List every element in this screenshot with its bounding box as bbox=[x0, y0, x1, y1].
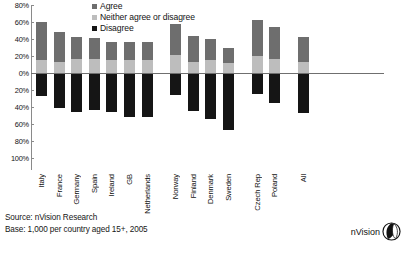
bar-column[interactable] bbox=[298, 5, 309, 170]
bar-column[interactable] bbox=[188, 5, 199, 170]
bar-column[interactable] bbox=[89, 5, 100, 170]
bar-segment-neither bbox=[252, 56, 263, 73]
bar-segment-neither bbox=[106, 60, 117, 73]
bar-segment-disagree bbox=[124, 73, 135, 117]
bar-segment-agree bbox=[89, 38, 100, 59]
x-axis-category-label: Poland bbox=[270, 174, 279, 197]
bar-segment-disagree bbox=[170, 73, 181, 95]
bar-column[interactable] bbox=[223, 5, 234, 170]
y-axis-tick-label: 40% bbox=[15, 35, 29, 44]
x-axis-category-label: Sweden bbox=[224, 174, 233, 201]
bar-column[interactable] bbox=[269, 5, 280, 170]
chart-footer: Source: nVision Research Base: 1,000 per… bbox=[5, 213, 148, 237]
chart-container: Agree Neither agree or disagree Disagree… bbox=[0, 0, 407, 255]
x-axis-category-label: All bbox=[299, 174, 308, 182]
bar-segment-disagree bbox=[36, 73, 47, 96]
x-axis-category-label: Italy bbox=[37, 174, 46, 187]
x-axis-category-label: Ireland bbox=[107, 174, 116, 197]
bar-segment-disagree bbox=[269, 73, 280, 103]
bar-segment-neither bbox=[269, 59, 280, 73]
bar-segment-agree bbox=[106, 42, 117, 61]
bar-segment-agree bbox=[298, 37, 309, 62]
nvision-logo-icon bbox=[382, 222, 401, 241]
bar-segment-agree bbox=[142, 42, 153, 60]
bar-column[interactable] bbox=[106, 5, 117, 170]
bar-segment-agree bbox=[124, 42, 135, 60]
y-axis-tick-label: 20% bbox=[15, 52, 29, 61]
bar-segment-disagree bbox=[252, 73, 263, 94]
x-axis-category-label: Czech Rep bbox=[253, 174, 262, 211]
bar-segment-agree bbox=[188, 36, 199, 62]
bar-segment-neither bbox=[124, 60, 135, 73]
bar-segment-neither bbox=[170, 55, 181, 73]
x-axis-category-label: Finland bbox=[189, 174, 198, 198]
bar-segment-agree bbox=[71, 37, 82, 59]
bar-segment-disagree bbox=[54, 73, 65, 108]
zero-baseline bbox=[31, 73, 384, 74]
bar-column[interactable] bbox=[54, 5, 65, 170]
x-axis-category-label: Germany bbox=[72, 174, 81, 205]
x-axis-category-label: Norway bbox=[171, 174, 180, 199]
brand-name: nVision bbox=[351, 227, 380, 237]
bar-column[interactable] bbox=[124, 5, 135, 170]
bar-column[interactable] bbox=[142, 5, 153, 170]
brand-logo: nVision bbox=[351, 222, 401, 241]
bar-column[interactable] bbox=[205, 5, 216, 170]
y-axis-tick-label: 20% bbox=[15, 86, 29, 95]
bar-segment-neither bbox=[89, 59, 100, 73]
x-axis-category-label: France bbox=[55, 174, 64, 197]
bar-segment-neither bbox=[223, 63, 234, 73]
source-note: Source: nVision Research bbox=[5, 213, 148, 222]
y-axis-tick-label: 60% bbox=[15, 120, 29, 129]
bar-column[interactable] bbox=[71, 5, 82, 170]
bar-segment-agree bbox=[269, 27, 280, 59]
bar-segment-disagree bbox=[223, 73, 234, 130]
bar-segment-disagree bbox=[188, 73, 199, 111]
bar-segment-neither bbox=[298, 62, 309, 73]
bar-segment-neither bbox=[205, 60, 216, 73]
x-axis-category-label: Netherlands bbox=[143, 174, 152, 214]
y-axis-tick-label: 40% bbox=[15, 103, 29, 112]
bar-segment-agree bbox=[170, 24, 181, 55]
y-axis-tick-label: 60% bbox=[15, 18, 29, 27]
bar-segment-disagree bbox=[71, 73, 82, 112]
bar-segment-agree bbox=[223, 48, 234, 62]
bar-segment-neither bbox=[188, 62, 199, 73]
x-axis-category-label: Spain bbox=[90, 174, 99, 193]
y-axis-tick-label: 80% bbox=[15, 137, 29, 146]
bar-segment-disagree bbox=[89, 73, 100, 110]
bar-segment-neither bbox=[36, 60, 47, 73]
bar-segment-disagree bbox=[142, 73, 153, 117]
bar-segment-disagree bbox=[205, 73, 216, 119]
y-axis-tick-label: 80% bbox=[15, 1, 29, 10]
bar-column[interactable] bbox=[170, 5, 181, 170]
bar-segment-agree bbox=[54, 32, 65, 62]
bar-segment-agree bbox=[205, 39, 216, 60]
base-note: Base: 1,000 per country aged 15+, 2005 bbox=[5, 225, 148, 234]
bar-segment-agree bbox=[36, 22, 47, 60]
bar-column[interactable] bbox=[36, 5, 47, 170]
x-axis-category-label: GB bbox=[125, 174, 134, 185]
bar-segment-agree bbox=[252, 20, 263, 56]
bar-segment-disagree bbox=[106, 73, 117, 112]
bar-segment-neither bbox=[71, 59, 82, 73]
y-axis-tick-label: 100% bbox=[11, 154, 29, 163]
plot-area bbox=[31, 5, 371, 170]
bar-segment-neither bbox=[142, 60, 153, 73]
x-axis-category-label: Denmark bbox=[206, 174, 215, 204]
y-axis-tick-label: 0% bbox=[19, 69, 29, 78]
bar-segment-disagree bbox=[298, 73, 309, 113]
bar-segment-neither bbox=[54, 62, 65, 73]
bar-column[interactable] bbox=[252, 5, 263, 170]
